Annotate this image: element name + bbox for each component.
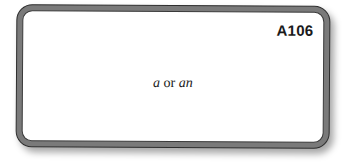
card-phrase: a or an — [23, 74, 323, 92]
card-face: A106 a or an — [22, 10, 325, 143]
stage: A106 a or an — [0, 0, 356, 164]
card-connector-or: or — [160, 75, 179, 90]
card-word-an: an — [179, 75, 193, 90]
card-code-label: A106 — [277, 22, 314, 39]
flash-card: A106 a or an — [16, 4, 331, 149]
